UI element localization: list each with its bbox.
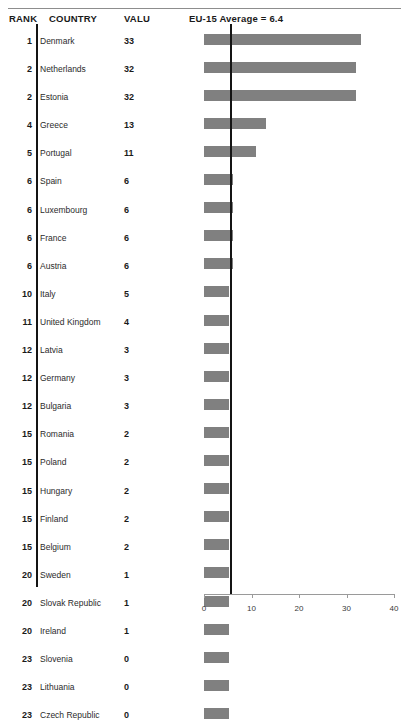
table-row: 5Portugal11: [0, 139, 409, 167]
row-rank: 6: [0, 233, 32, 243]
row-country: Slovenia: [40, 654, 73, 664]
row-country: Sweden: [40, 570, 71, 580]
row-rank: 6: [0, 261, 32, 271]
table-row: 1Denmark33: [0, 27, 409, 55]
row-value: 2: [124, 542, 129, 552]
row-value: 5: [124, 289, 129, 299]
row-rank: 6: [0, 176, 32, 186]
row-value: 6: [124, 205, 129, 215]
row-value: 6: [124, 261, 129, 271]
row-rank: 15: [0, 514, 32, 524]
row-country: Denmark: [40, 36, 74, 46]
table-row: 12Germany3: [0, 364, 409, 392]
row-country: Ireland: [40, 626, 66, 636]
row-rank: 23: [0, 682, 32, 692]
row-value: 2: [124, 429, 129, 439]
column-header-rank: RANK: [9, 13, 43, 24]
row-value: 1: [124, 570, 129, 580]
table-row: 23Lithuania0: [0, 673, 409, 701]
row-rank: 1: [0, 36, 32, 46]
row-value: 0: [124, 654, 129, 664]
top-divider: [8, 8, 401, 9]
row-value: 33: [124, 36, 134, 46]
table-row: 6Luxembourg6: [0, 196, 409, 224]
row-country: Luxembourg: [40, 205, 87, 215]
row-value: 6: [124, 233, 129, 243]
row-value: 11: [124, 148, 134, 158]
table-row: 20Slovak Republic1: [0, 589, 409, 617]
row-country: Germany: [40, 373, 75, 383]
row-rank: 20: [0, 570, 32, 580]
row-country: Latvia: [40, 345, 63, 355]
row-rank: 6: [0, 205, 32, 215]
row-rank: 2: [0, 64, 32, 74]
row-country: Italy: [40, 289, 56, 299]
table-row: 23Czech Republic0: [0, 701, 409, 724]
table-row: 6France6: [0, 224, 409, 252]
table-row: 20Ireland1: [0, 617, 409, 645]
row-country: Belgium: [40, 542, 71, 552]
row-rank: 12: [0, 345, 32, 355]
row-rank: 12: [0, 401, 32, 411]
row-country: Greece: [40, 120, 68, 130]
row-country: United Kingdom: [40, 317, 100, 327]
row-rank: 23: [0, 710, 32, 720]
eu-average-label: EU-15 Average = 6.4: [189, 13, 283, 24]
row-rank: 10: [0, 289, 32, 299]
table-row: 2Estonia32: [0, 83, 409, 111]
table-row: 4Greece13: [0, 111, 409, 139]
row-rank: 23: [0, 654, 32, 664]
row-value: 13: [124, 120, 134, 130]
table-row: 11United Kingdom4: [0, 308, 409, 336]
table-row: 6Austria6: [0, 252, 409, 280]
row-country: Hungary: [40, 486, 72, 496]
row-value: 0: [124, 682, 129, 692]
row-country: Austria: [40, 261, 66, 271]
table-row: 10Italy5: [0, 280, 409, 308]
row-country: Portugal: [40, 148, 72, 158]
row-country: Lithuania: [40, 682, 75, 692]
column-header-country: COUNTRY: [49, 13, 97, 24]
row-country: Estonia: [40, 92, 68, 102]
row-country: Poland: [40, 457, 66, 467]
table-row: 12Bulgaria3: [0, 392, 409, 420]
row-value: 2: [124, 457, 129, 467]
table-row: 15Belgium2: [0, 533, 409, 561]
row-rank: 15: [0, 486, 32, 496]
row-rank: 20: [0, 626, 32, 636]
table-row: 15Poland2: [0, 448, 409, 476]
row-rank: 20: [0, 598, 32, 608]
row-country: Finland: [40, 514, 68, 524]
table-row: 6Spain6: [0, 167, 409, 195]
row-value: 3: [124, 373, 129, 383]
table-row: 20Sweden1: [0, 561, 409, 589]
column-header-value: VALU: [124, 13, 150, 24]
row-value: 32: [124, 64, 134, 74]
table-row: 23Slovenia0: [0, 645, 409, 673]
row-country: Romania: [40, 429, 74, 439]
row-rank: 2: [0, 92, 32, 102]
row-value: 1: [124, 598, 129, 608]
row-rank: 5: [0, 148, 32, 158]
row-rank: 12: [0, 373, 32, 383]
table-row: 2Netherlands32: [0, 55, 409, 83]
row-value: 2: [124, 486, 129, 496]
row-value: 32: [124, 92, 134, 102]
row-value: 2: [124, 514, 129, 524]
row-rank: 15: [0, 429, 32, 439]
row-value: 1: [124, 626, 129, 636]
row-value: 3: [124, 345, 129, 355]
country-table: 1Denmark332Netherlands322Estonia324Greec…: [0, 27, 409, 724]
row-rank: 15: [0, 457, 32, 467]
row-country: Bulgaria: [40, 401, 71, 411]
row-rank: 4: [0, 120, 32, 130]
row-country: Czech Republic: [40, 710, 100, 720]
row-value: 3: [124, 401, 129, 411]
row-country: Slovak Republic: [40, 598, 101, 608]
row-country: Spain: [40, 176, 62, 186]
table-row: 15Finland2: [0, 505, 409, 533]
row-value: 6: [124, 176, 129, 186]
row-value: 4: [124, 317, 129, 327]
row-value: 0: [124, 710, 129, 720]
